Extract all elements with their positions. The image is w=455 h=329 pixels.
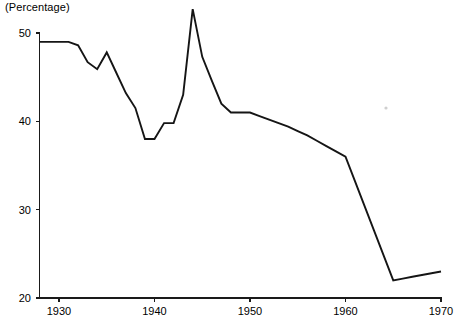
percentage-line-chart: (Percentage) 20304050 193019401950196019… (0, 0, 455, 329)
print-speck-artifact (384, 106, 387, 109)
y-axis-tick-labels: 20304050 (19, 27, 31, 304)
x-tick-label: 1950 (238, 305, 262, 317)
y-tick-label: 20 (19, 292, 31, 304)
x-axis-tick-labels: 19301940195019601970 (47, 305, 453, 317)
x-tick-label: 1970 (429, 305, 453, 317)
y-tick-label: 50 (19, 27, 31, 39)
x-axis-tick-marks (59, 298, 441, 302)
x-tick-label: 1930 (47, 305, 71, 317)
y-axis-tick-marks (36, 33, 40, 298)
y-tick-label: 40 (19, 115, 31, 127)
data-series-line (40, 9, 441, 280)
y-tick-label: 30 (19, 204, 31, 216)
x-tick-label: 1940 (142, 305, 166, 317)
x-tick-label: 1960 (333, 305, 357, 317)
chart-plot-area: 20304050 19301940195019601970 (0, 0, 455, 329)
